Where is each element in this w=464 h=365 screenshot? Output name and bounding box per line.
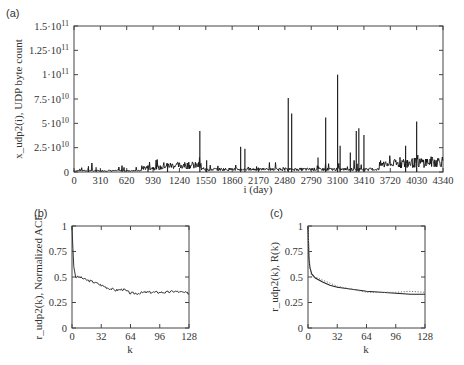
y-tick-label: 0.25 [285,297,303,308]
plot-frame-b [72,226,189,328]
y-tick-label: 0 [298,323,303,334]
y-axis-label-b: r_udp2(k), Normalized ACF [32,215,45,340]
y-tick-label: 5·1010 [42,116,69,129]
x-tick-label: 620 [119,175,135,186]
chart-b: 00.250.50.751 0326496128 k r_udp2(k), No… [32,215,197,355]
series-a [74,75,443,172]
x-tick-label: 930 [145,175,161,186]
y-ticks-a: 02.5·10105·10107.5·10101·10111.25·10111.… [29,19,443,178]
y-axis-label-c: r_udp2(k), R(k) [268,242,281,312]
y-ticks-b: 00.250.50.751 [49,221,189,334]
x-tick-label: 1860 [222,175,243,186]
plot-frame-c [308,226,425,328]
figure: (a) (b) (c) 02.5·10105·10107.5·10101·101… [0,0,464,365]
y-tick-label: 0 [62,323,67,334]
model-line-c [308,226,425,294]
y-tick-label: 1·1011 [42,67,69,80]
plot-frame-a [74,26,443,172]
x-tick-label: 32 [96,331,107,342]
x-tick-label: 0 [71,175,76,186]
panel-a-label: (a) [6,7,19,19]
y-tick-label: 1.25·1011 [29,43,69,56]
x-tick-label: 64 [361,331,372,342]
x-tick-label: 4340 [433,175,454,186]
series-c [308,226,425,294]
y-tick-label: 7.5·1010 [34,92,69,105]
x-tick-label: 1550 [195,175,216,186]
x-tick-label: 0 [305,331,310,342]
x-axis-label-b: k [127,343,133,355]
y-tick-label: 2.5·1010 [34,140,69,153]
empirical-dotted-c [308,226,425,292]
y-tick-label: 0 [64,167,69,178]
x-tick-label: 96 [155,331,166,342]
chart-a: 02.5·10105·10107.5·10101·10111.25·10111.… [12,19,454,197]
y-tick-label: 0.75 [285,246,303,257]
x-tick-label: 1240 [169,175,190,186]
y-tick-label: 1.5·1011 [34,19,69,32]
series-b [72,226,189,295]
x-tick-label: 3100 [327,175,348,186]
x-axis-label-c: k [363,343,369,355]
y-ticks-c: 00.250.50.751 [285,221,425,334]
y-tick-label: 0.5 [54,272,67,283]
x-tick-label: 32 [332,331,343,342]
x-tick-label: 2790 [301,175,322,186]
chart-c: 00.250.50.751 0326496128 k r_udp2(k), R(… [268,221,433,356]
x-tick-label: 2480 [274,175,295,186]
y-tick-label: 0.75 [49,246,67,257]
y-tick-label: 1 [298,221,303,232]
panel-c-label: (c) [270,207,283,219]
y-tick-label: 1 [62,221,67,232]
x-tick-label: 128 [417,331,433,342]
x-ticks-b: 0326496128 [69,226,197,342]
x-tick-label: 3410 [353,175,374,186]
x-tick-label: 3720 [380,175,401,186]
x-tick-label: 64 [125,331,136,342]
x-ticks-c: 0326496128 [305,226,433,342]
acf-line-b [72,226,189,295]
x-tick-label: 128 [181,331,197,342]
y-tick-label: 0.25 [49,297,67,308]
y-tick-label: 0.5 [290,272,303,283]
x-tick-label: 310 [92,175,108,186]
x-axis-label-a: i (day) [243,183,272,196]
x-tick-label: 0 [69,331,74,342]
x-tick-label: 96 [391,331,402,342]
y-axis-label-a: x_udp2(i), UDP byte count [12,39,25,158]
x-tick-label: 4030 [406,175,427,186]
